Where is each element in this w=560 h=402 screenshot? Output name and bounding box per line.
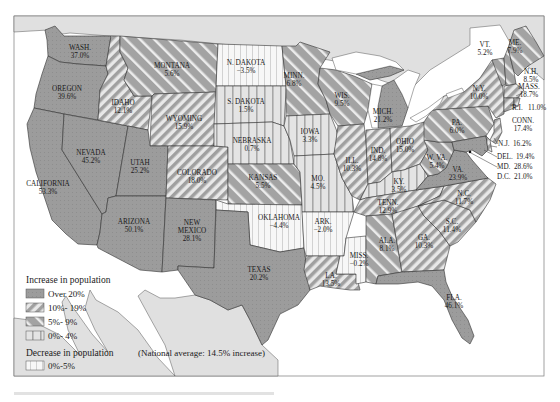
- label-south-carolina: S.C.: [446, 218, 459, 226]
- value-tennessee: 12.9%: [379, 207, 398, 215]
- label-utah: UTAH: [130, 159, 149, 167]
- dc-marker: [469, 151, 472, 154]
- label-virginia: VA.: [452, 166, 463, 174]
- label-south-dakota: S. DAKOTA: [227, 98, 265, 106]
- label-indiana: IND.: [371, 147, 386, 155]
- label-montana: MONTANA: [154, 62, 191, 70]
- value-new-mexico: 28.1%: [183, 235, 202, 243]
- value-massachusetts: 18.7%: [520, 91, 539, 99]
- label-iowa: IOWA: [301, 128, 321, 136]
- value-iowa: 3.3%: [303, 136, 318, 144]
- value-idaho: 12.1%: [114, 107, 133, 115]
- label-wyoming: WYOMING: [166, 115, 202, 123]
- value-maine: 7.9%: [508, 47, 523, 55]
- legend-swatch-over20: [26, 289, 44, 298]
- label-missouri: MO.: [311, 175, 325, 183]
- value-west-virginia: 5.4%: [430, 162, 445, 170]
- label-maryland: MD.: [497, 163, 511, 171]
- label-colorado: COLORADO: [177, 169, 217, 177]
- legend-swatch-decrease: [26, 361, 44, 370]
- label-wash: WASH.: [69, 44, 91, 52]
- value-missouri: 4.5%: [311, 183, 326, 191]
- label-pennsylvania: PA.: [452, 119, 463, 127]
- label-nebraska: NEBRASKA: [233, 137, 273, 145]
- label-rhode-island: R.I.: [512, 104, 523, 112]
- value-nebraska: 0.7%: [245, 145, 260, 153]
- value-wyoming: 15.9%: [175, 123, 194, 131]
- value-louisiana: 13.5%: [322, 280, 341, 288]
- value-dc: 21.0%: [514, 173, 533, 181]
- value-florida: 46.1%: [445, 302, 464, 310]
- value-wash: 37.0%: [71, 52, 90, 60]
- value-mississippi: −0.2%: [349, 260, 368, 268]
- value-indiana: 14.8%: [369, 155, 388, 163]
- label-dc: D.C.: [497, 173, 511, 181]
- label-massachusetts: MASS.: [518, 83, 540, 91]
- value-oklahoma: −4.4%: [269, 222, 288, 230]
- value-utah: 25.2%: [131, 167, 150, 175]
- value-rhode-island: 11.0%: [528, 104, 546, 112]
- value-california: 53.3%: [39, 188, 58, 196]
- label-idaho: IDAHO: [111, 99, 134, 107]
- value-south-carolina: 11.4%: [443, 226, 461, 234]
- label-wisconsin: WIS.: [335, 92, 350, 100]
- legend-swatch-10-19: [26, 303, 44, 312]
- label-arizona: ARIZONA: [118, 218, 151, 226]
- label-ohio: OHIO: [396, 138, 414, 146]
- value-kansas: 5.5%: [256, 182, 271, 190]
- value-south-dakota: 1.5%: [239, 106, 254, 114]
- label-delaware: DEL.: [497, 153, 513, 161]
- value-north-dakota: −3.5%: [236, 67, 255, 75]
- label-oregon: OREGON: [52, 85, 83, 93]
- label-louisiana: LA.: [325, 272, 337, 280]
- legend-label-decrease: 0%-5%: [48, 361, 75, 371]
- value-montana: 5.6%: [165, 70, 180, 78]
- value-arkansas: −2.0%: [313, 226, 332, 234]
- value-georgia: 10.3%: [415, 242, 434, 250]
- value-minnesota: 6.8%: [287, 80, 302, 88]
- legend-swatch-0-4: [26, 331, 44, 340]
- value-maryland: 28.6%: [514, 163, 533, 171]
- label-north-carolina: N.C.: [457, 190, 471, 198]
- value-michigan: 21.2%: [374, 116, 393, 124]
- value-nevada: 45.2%: [82, 157, 101, 165]
- value-ohio: 15.0%: [396, 146, 415, 154]
- label-illinois: ILL.: [346, 157, 359, 165]
- value-connecticut: 17.4%: [514, 125, 533, 133]
- label-north-dakota: N. DAKOTA: [227, 59, 266, 67]
- label-connecticut: CONN.: [512, 117, 534, 125]
- label-new-jersey: N.J.: [498, 140, 510, 148]
- value-north-carolina: 11.7%: [455, 198, 473, 206]
- value-oregon: 39.6%: [58, 93, 77, 101]
- label-alabama: ALA.: [379, 237, 396, 245]
- value-illinois: 10.3%: [343, 165, 362, 173]
- value-new-jersey: 16.2%: [513, 140, 532, 148]
- legend-label-5-9: 5%- 9%: [48, 317, 78, 327]
- label-new-mexico-1: NEW: [184, 219, 201, 227]
- value-pennsylvania: 6.0%: [450, 127, 465, 135]
- national-average-note: (National average: 14.5% increase): [138, 348, 265, 358]
- legend-swatch-5-9: [26, 317, 44, 326]
- caption-strip: [14, 392, 274, 395]
- label-arkansas: ARK.: [315, 218, 332, 226]
- value-texas: 20.2%: [250, 274, 269, 282]
- legend-label-0-4: 0%- 4%: [48, 331, 78, 341]
- value-colorado: 18.0%: [188, 177, 207, 185]
- population-change-map: WASH. 37.0% OREGON 39.6% CALIFORNIA 53.3…: [0, 0, 560, 402]
- value-virginia: 23.9%: [449, 174, 468, 182]
- value-kentucky: 3.5%: [392, 186, 407, 194]
- value-vermont: 5.2%: [478, 49, 493, 57]
- label-kentucky: KY.: [393, 178, 404, 186]
- value-new-york: 10.0%: [470, 93, 489, 101]
- label-california: CALIFORNIA: [26, 180, 70, 188]
- label-kansas: KANSAS: [249, 174, 278, 182]
- label-florida: FLA.: [446, 294, 462, 302]
- label-tennessee: TENN.: [378, 199, 399, 207]
- label-texas: TEXAS: [247, 266, 270, 274]
- label-new-hampshire: N.H.: [524, 68, 538, 76]
- label-nevada: NEVADA: [76, 149, 106, 157]
- legend-label-over20: Over 20%: [48, 289, 85, 299]
- label-mississippi: MISS.: [350, 252, 369, 260]
- label-new-york: N.Y.: [472, 85, 485, 93]
- legend-label-10-19: 10%- 19%: [48, 303, 87, 313]
